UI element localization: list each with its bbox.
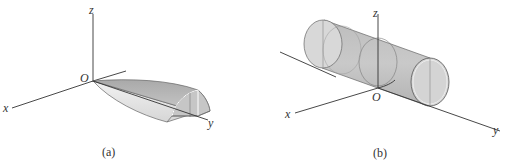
origin-label-b: O	[372, 90, 381, 104]
caption-b: (b)	[373, 146, 387, 160]
x-label-a: x	[2, 101, 9, 115]
z-label-a: z	[88, 3, 94, 17]
z-label-b: z	[372, 6, 378, 20]
y-label-a: y	[207, 116, 214, 130]
x-axis-b	[295, 88, 378, 113]
panel-a: z O x y (a)	[2, 3, 214, 159]
caption-a: (a)	[102, 145, 115, 159]
y-label-b: y	[492, 123, 499, 137]
x-axis-a	[12, 81, 93, 108]
x-label-b: x	[284, 107, 291, 121]
figure-canvas: z O x y (a) z O x	[0, 0, 511, 164]
panel-b: z O x y (b)	[280, 6, 500, 160]
origin-label-a: O	[80, 71, 89, 85]
